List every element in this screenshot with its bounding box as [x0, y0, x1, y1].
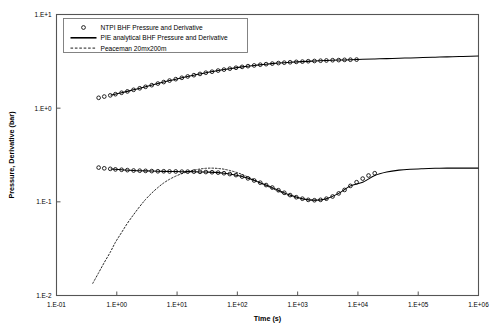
y-tick-label: 1.E-2 — [36, 292, 52, 299]
chart-container: 1.E-011.E+001.E+011.E+021.E+031.E+041.E+… — [0, 0, 499, 331]
legend-item-0: NTPI BHF Pressure and Derivative — [82, 24, 203, 31]
x-tick-label: 1.E-01 — [47, 301, 66, 308]
y-axis-title: Pressure, Derivative (bar) — [7, 111, 16, 199]
chart-legend: NTPI BHF Pressure and DerivativePIE anal… — [64, 19, 248, 53]
legend-label: NTPI BHF Pressure and Derivative — [101, 24, 204, 31]
legend-label: PIE analytical BHF Pressure and Derivati… — [101, 34, 228, 42]
x-tick-label: 1.E+03 — [287, 301, 308, 308]
legend-label: Peaceman 20mx200m — [101, 45, 167, 52]
x-tick-label: 1.E+00 — [107, 301, 128, 308]
y-tick-label: 1.E+1 — [35, 11, 52, 18]
log-log-chart: 1.E-011.E+001.E+011.E+021.E+031.E+041.E+… — [0, 0, 499, 331]
x-axis-title: Time (s) — [254, 314, 282, 323]
y-tick-label: 1.E-1 — [36, 198, 52, 205]
x-tick-label: 1.E+05 — [408, 301, 429, 308]
x-tick-label: 1.E+01 — [167, 301, 188, 308]
y-tick-label: 1.E+0 — [35, 105, 52, 112]
x-tick-label: 1.E+06 — [468, 301, 489, 308]
x-tick-label: 1.E+04 — [348, 301, 369, 308]
x-tick-label: 1.E+02 — [227, 301, 248, 308]
